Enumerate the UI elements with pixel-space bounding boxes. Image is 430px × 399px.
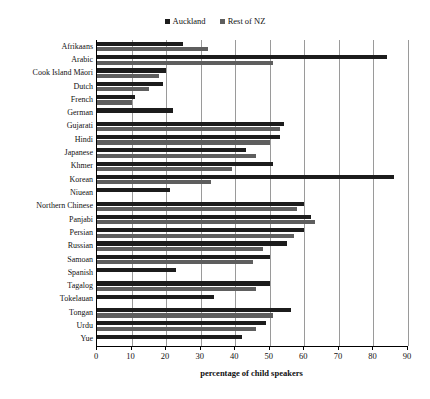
x-tick [131, 346, 132, 350]
bar-rest-of-nz [97, 220, 315, 224]
bar-auckland [97, 55, 387, 59]
gridline [235, 40, 236, 346]
category-label: Panjabi [1, 216, 96, 224]
bar-auckland [97, 335, 242, 339]
bar-auckland [97, 321, 266, 325]
bar-rest-of-nz [97, 47, 208, 51]
category-axis: AfrikaansArabicCook Island MāoriDutchFre… [0, 40, 96, 346]
bar-rest-of-nz [97, 327, 256, 331]
plot-area [96, 40, 408, 346]
category-label: Tagalog [1, 282, 96, 290]
bar-rest-of-nz [97, 61, 273, 65]
category-label: Japanese [1, 149, 96, 157]
x-tick-label: 90 [396, 351, 418, 361]
category-label: Khmer [1, 162, 96, 170]
bar-auckland [97, 95, 135, 99]
gridline [373, 40, 374, 346]
bar-rest-of-nz [97, 180, 211, 184]
x-tick-label: 0 [85, 351, 107, 361]
bar-rest-of-nz [97, 313, 273, 317]
gridline [201, 40, 202, 346]
category-label: Samoan [1, 256, 96, 264]
legend-entry-auckland: Auckland [165, 17, 206, 26]
category-label: Cook Island Māori [1, 69, 96, 77]
bar-rest-of-nz [97, 127, 280, 131]
bar-auckland [97, 215, 311, 219]
bar-auckland [97, 308, 291, 312]
bar-auckland [97, 108, 173, 112]
bar-rest-of-nz [97, 287, 256, 291]
category-label: Dutch [1, 83, 96, 91]
legend-label-auckland: Auckland [173, 17, 206, 26]
bar-auckland [97, 188, 170, 192]
bar-rest-of-nz [97, 154, 256, 158]
category-label: Arabic [1, 56, 96, 64]
category-label: Yue [1, 335, 96, 343]
bar-rest-of-nz [97, 260, 253, 264]
category-label: Urdu [1, 322, 96, 330]
category-label: Tokelauan [1, 295, 96, 303]
bar-rest-of-nz [97, 74, 159, 78]
bar-auckland [97, 162, 273, 166]
legend-swatch-rest-of-nz [220, 19, 225, 24]
category-label: German [1, 109, 96, 117]
bar-rest-of-nz [97, 234, 294, 238]
bar-auckland [97, 122, 284, 126]
x-axis-label: percentage of child speakers [96, 368, 407, 378]
bar-chart: Auckland Rest of NZ AfrikaansArabicCook … [0, 0, 430, 399]
legend-swatch-auckland [165, 19, 170, 24]
x-tick [165, 346, 166, 350]
legend-label-rest-of-nz: Rest of NZ [228, 17, 266, 26]
bar-auckland [97, 268, 176, 272]
bar-auckland [97, 281, 270, 285]
x-tick [407, 346, 408, 350]
chart-title [0, 0, 430, 2]
gridline [408, 40, 409, 346]
bar-rest-of-nz [97, 140, 270, 144]
bar-auckland [97, 148, 246, 152]
gridline [270, 40, 271, 346]
bar-auckland [97, 241, 287, 245]
bar-auckland [97, 228, 304, 232]
x-tick [96, 346, 97, 350]
category-label: Korean [1, 176, 96, 184]
bar-auckland [97, 202, 304, 206]
category-label: Tongan [1, 309, 96, 317]
x-tick-label: 50 [258, 351, 280, 361]
bar-rest-of-nz [97, 207, 297, 211]
category-label: Niuean [1, 189, 96, 197]
x-tick [303, 346, 304, 350]
bar-auckland [97, 175, 394, 179]
category-label: Spanish [1, 269, 96, 277]
category-label: Hindi [1, 136, 96, 144]
gridline [304, 40, 305, 346]
chart-legend: Auckland Rest of NZ [0, 17, 430, 26]
x-tick [372, 346, 373, 350]
bar-auckland [97, 255, 270, 259]
bar-auckland [97, 295, 214, 299]
x-tick [234, 346, 235, 350]
x-tick [338, 346, 339, 350]
bar-rest-of-nz [97, 100, 132, 104]
bar-auckland [97, 135, 280, 139]
bar-rest-of-nz [97, 247, 263, 251]
category-label: Persian [1, 229, 96, 237]
bar-rest-of-nz [97, 87, 149, 91]
category-label: Afrikaans [1, 43, 96, 51]
category-label: Gujarati [1, 122, 96, 130]
bar-auckland [97, 42, 183, 46]
category-label: French [1, 96, 96, 104]
x-tick [200, 346, 201, 350]
x-tick-label: 60 [292, 351, 314, 361]
x-tick-label: 20 [154, 351, 176, 361]
x-tick-label: 80 [361, 351, 383, 361]
bar-auckland [97, 68, 166, 72]
x-tick-label: 40 [223, 351, 245, 361]
x-tick-label: 10 [120, 351, 142, 361]
category-label: Northern Chinese [1, 202, 96, 210]
x-axis-line [96, 346, 407, 347]
x-tick-label: 70 [327, 351, 349, 361]
gridline [166, 40, 167, 346]
bar-auckland [97, 82, 163, 86]
legend-entry-rest-of-nz: Rest of NZ [220, 17, 266, 26]
